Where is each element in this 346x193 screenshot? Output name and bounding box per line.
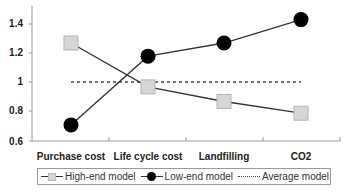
y-tick-label: 0.8 — [9, 105, 23, 116]
x-tick-marks — [109, 137, 340, 141]
circle-marker-icon — [217, 36, 232, 51]
legend-label: Low-end model — [165, 171, 233, 182]
y-tick-label: 0.6 — [9, 136, 23, 147]
square-marker-icon — [217, 95, 231, 109]
high-end-model-line — [71, 43, 301, 113]
x-category-label: Life cycle cost — [114, 151, 184, 162]
x-category-label: CO2 — [291, 151, 312, 162]
low-end-model-line — [71, 20, 301, 125]
circle-marker-icon — [64, 117, 79, 132]
circle-marker-icon — [141, 172, 163, 182]
legend: High-end model Low-end model Average mod… — [37, 168, 331, 185]
line-chart: 1.4 1.2 1 0.8 0.6 Purchase cost Life cyc… — [0, 0, 346, 193]
legend-item-average: Average model — [238, 171, 329, 182]
dotted-line-icon — [238, 172, 260, 182]
circle-marker-icon — [141, 49, 156, 64]
square-marker-icon — [294, 106, 308, 120]
legend-item-low-end: Low-end model — [141, 171, 233, 182]
x-category-label: Landfilling — [199, 151, 250, 162]
x-category-label: Purchase cost — [37, 151, 106, 162]
square-marker-icon — [41, 172, 63, 182]
legend-item-high-end: High-end model — [41, 171, 136, 182]
legend-label: Average model — [262, 171, 329, 182]
low-end-model-markers — [64, 12, 309, 132]
square-marker-icon — [141, 80, 155, 94]
y-tick-label: 1.4 — [9, 18, 23, 29]
high-end-model-markers — [64, 36, 308, 120]
circle-marker-icon — [294, 12, 309, 27]
legend-label: High-end model — [65, 171, 136, 182]
square-marker-icon — [64, 36, 78, 50]
y-tick-label: 1.2 — [9, 47, 23, 58]
y-tick-label: 1 — [17, 76, 23, 87]
